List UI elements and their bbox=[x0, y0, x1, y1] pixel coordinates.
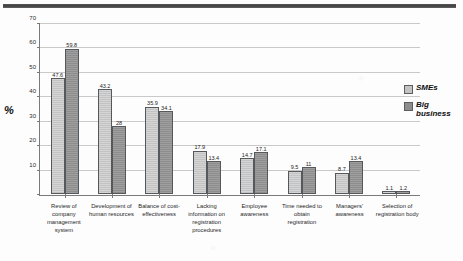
bar-smes[interactable]: 17.9 bbox=[193, 151, 207, 194]
y-tick-mark bbox=[37, 47, 40, 48]
bar-big-business[interactable]: 13.4 bbox=[349, 161, 363, 194]
bar-big-business[interactable]: 59.8 bbox=[65, 49, 79, 194]
x-tick-mark bbox=[65, 194, 66, 198]
y-tick-mark bbox=[37, 145, 40, 146]
chart-legend: SMEs Big business bbox=[404, 84, 462, 125]
chart-page: % 10203040506070 47.659.843.22835.934.11… bbox=[0, 0, 463, 261]
bar-big-business[interactable]: 11 bbox=[302, 167, 316, 194]
x-tick-mark bbox=[349, 194, 350, 198]
bar-value-label: 43.2 bbox=[100, 84, 111, 90]
x-tick-mark bbox=[159, 194, 160, 198]
bar-value-label: 14.7 bbox=[242, 153, 253, 159]
y-tick-label: 40 bbox=[29, 88, 36, 94]
bar-group: 8.713.4 bbox=[325, 24, 372, 194]
bar-value-label: 17.1 bbox=[256, 147, 267, 153]
bar-value-label: 1.1 bbox=[385, 186, 393, 192]
bar-groups: 47.659.843.22835.934.117.913.414.717.19.… bbox=[41, 24, 420, 194]
x-tick-mark bbox=[302, 194, 303, 198]
x-tick-mark bbox=[396, 194, 397, 198]
x-tick-mark bbox=[254, 194, 255, 198]
x-axis-category-labels: Review of company management systemDevel… bbox=[40, 202, 421, 234]
y-tick-label: 50 bbox=[29, 64, 36, 70]
bar-value-label: 13.4 bbox=[351, 156, 362, 162]
bar-value-label: 13.4 bbox=[208, 156, 219, 162]
bar-value-label: 28 bbox=[116, 121, 122, 127]
bar-value-label: 11 bbox=[306, 162, 312, 168]
bar-value-label: 8.7 bbox=[338, 167, 346, 173]
y-tick-label: 10 bbox=[29, 162, 36, 168]
bar-value-label: 1.2 bbox=[399, 186, 407, 192]
bar-group: 35.934.1 bbox=[136, 24, 183, 194]
bar-value-label: 17.9 bbox=[194, 145, 205, 151]
y-tick-label: 30 bbox=[29, 113, 36, 119]
bar-smes[interactable]: 35.9 bbox=[145, 107, 159, 194]
bar-value-label: 47.6 bbox=[52, 73, 63, 79]
y-tick-mark bbox=[37, 170, 40, 171]
x-tick-mark bbox=[112, 194, 113, 198]
bar-smes[interactable]: 47.6 bbox=[51, 78, 65, 194]
bar-big-business[interactable]: 17.1 bbox=[254, 152, 268, 194]
bar-big-business[interactable]: 28 bbox=[112, 126, 126, 194]
y-tick-label: 70 bbox=[29, 15, 36, 21]
bar-value-label: 34.1 bbox=[161, 106, 172, 112]
x-tick-mark bbox=[207, 194, 208, 198]
bar-smes[interactable]: 9.5 bbox=[288, 171, 302, 194]
bar-chart: 10203040506070 47.659.843.22835.934.117.… bbox=[39, 24, 420, 196]
y-tick-mark bbox=[37, 96, 40, 97]
bar-big-business[interactable]: 1.2 bbox=[396, 191, 410, 194]
bar-smes[interactable]: 8.7 bbox=[335, 173, 349, 194]
legend-item-big-business[interactable]: Big business bbox=[404, 101, 462, 118]
bar-big-business[interactable]: 34.1 bbox=[159, 111, 173, 194]
bar-smes[interactable]: 1.1 bbox=[382, 191, 396, 194]
y-tick-label: 60 bbox=[29, 39, 36, 45]
legend-label-smes: SMEs bbox=[416, 84, 438, 93]
x-axis-category-label: Lacking information on registration proc… bbox=[183, 202, 231, 234]
y-tick-mark bbox=[37, 23, 40, 24]
bar-value-label: 59.8 bbox=[66, 43, 77, 49]
y-axis-title: % bbox=[4, 104, 13, 116]
legend-label-big-business: Big business bbox=[416, 101, 462, 118]
bar-value-label: 35.9 bbox=[147, 101, 158, 107]
x-axis-category-label: Time needed to obtain registration bbox=[278, 202, 326, 234]
bar-group: 47.659.8 bbox=[41, 24, 88, 194]
legend-swatch-smes bbox=[404, 85, 413, 94]
x-axis-category-label: Managers' awareness bbox=[326, 202, 374, 234]
x-axis-category-label: Development of human resources bbox=[88, 202, 136, 234]
x-axis-category-label: Employee awareness bbox=[231, 202, 279, 234]
legend-item-smes[interactable]: SMEs bbox=[404, 84, 462, 94]
y-tick-mark bbox=[37, 72, 40, 73]
bar-smes[interactable]: 43.2 bbox=[98, 89, 112, 194]
y-tick-mark bbox=[37, 121, 40, 122]
bar-smes[interactable]: 14.7 bbox=[240, 158, 254, 194]
legend-swatch-big-business bbox=[404, 102, 413, 111]
bar-group: 14.717.1 bbox=[231, 24, 278, 194]
bar-group: 17.913.4 bbox=[183, 24, 230, 194]
x-axis-category-label: Balance of cost-effectiveness bbox=[135, 202, 183, 234]
x-axis-category-label: Selection of registration body bbox=[373, 202, 421, 234]
bar-group: 9.511 bbox=[278, 24, 325, 194]
y-tick-label: 20 bbox=[29, 137, 36, 143]
y-tick-mark bbox=[37, 194, 40, 195]
bar-value-label: 9.5 bbox=[291, 165, 299, 171]
x-axis-category-label: Review of company management system bbox=[40, 202, 88, 234]
bar-group: 43.228 bbox=[88, 24, 135, 194]
bar-big-business[interactable]: 13.4 bbox=[207, 161, 221, 194]
page-top-band bbox=[3, 4, 456, 8]
plot-area: 10203040506070 47.659.843.22835.934.117.… bbox=[39, 24, 420, 196]
